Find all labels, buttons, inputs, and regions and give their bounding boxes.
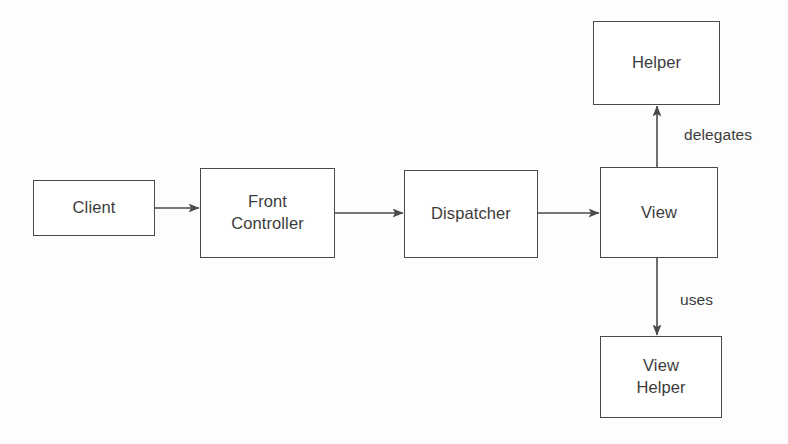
node-helper-label: Helper [632,52,681,74]
node-view-helper[interactable]: View Helper [600,336,722,418]
node-dispatcher[interactable]: Dispatcher [404,170,538,258]
node-front-controller-label: Front Controller [231,191,304,235]
node-view-helper-label: View Helper [636,355,685,399]
edge-label-delegates: delegates [684,127,752,143]
node-view[interactable]: View [600,167,718,258]
node-dispatcher-label: Dispatcher [431,203,511,225]
node-helper[interactable]: Helper [593,21,720,105]
diagram-canvas: Client Front Controller Dispatcher View … [0,0,788,444]
node-front-controller[interactable]: Front Controller [200,168,335,258]
node-view-label: View [641,202,677,224]
edge-label-uses: uses [680,292,713,308]
node-client[interactable]: Client [33,180,155,236]
node-client-label: Client [73,197,116,219]
